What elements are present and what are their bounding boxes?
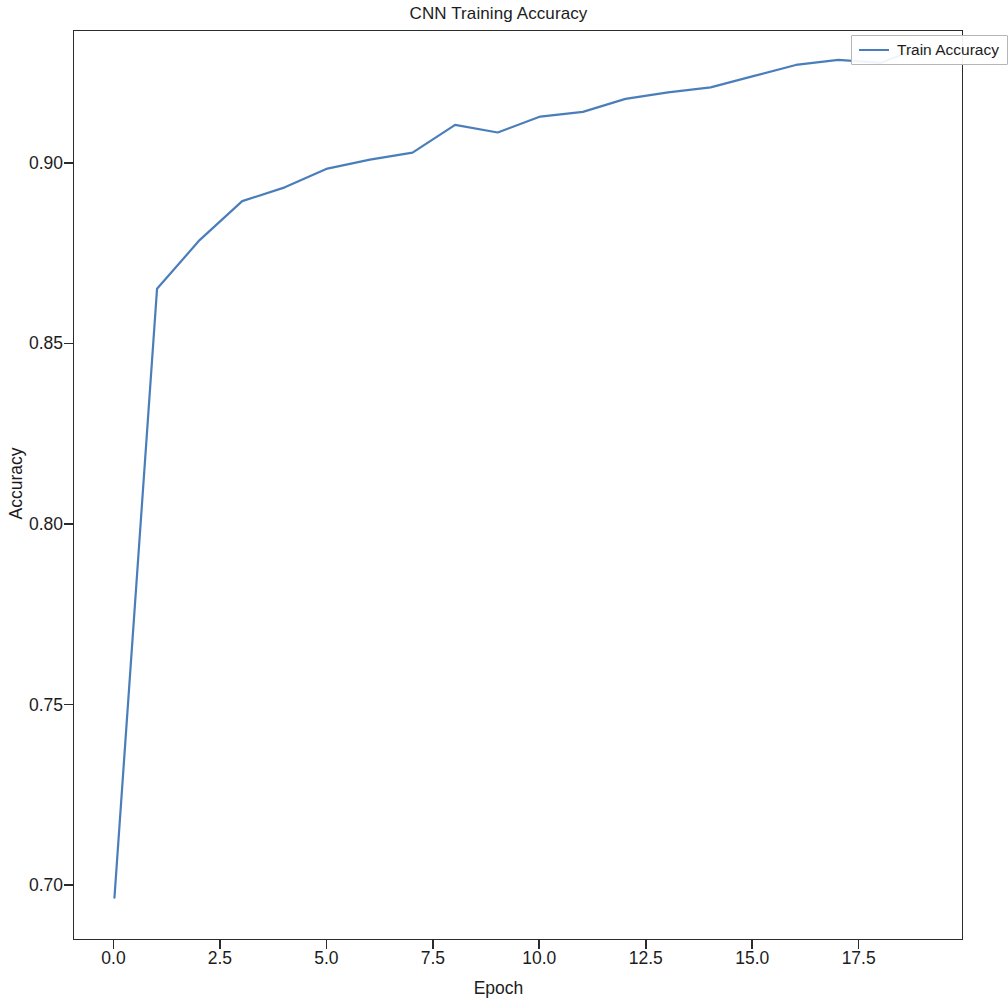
data-line-train-accuracy: [114, 47, 923, 898]
x-tick-mark: [858, 940, 860, 949]
x-tick-label: 15.0: [735, 948, 769, 969]
plot-area: [73, 30, 963, 940]
x-tick-mark: [751, 940, 753, 949]
y-tick-mark: [64, 884, 73, 886]
legend-line-swatch-icon: [859, 49, 889, 51]
x-tick-mark: [326, 940, 328, 949]
x-tick-mark: [432, 940, 434, 949]
x-tick-label: 5.0: [314, 948, 338, 969]
x-tick-label: 7.5: [421, 948, 445, 969]
x-tick-label: 0.0: [101, 948, 125, 969]
legend-label-train-accuracy: Train Accuracy: [897, 41, 999, 59]
x-axis-label: Epoch: [0, 978, 997, 999]
x-tick-label: 10.0: [522, 948, 556, 969]
y-axis-label: Accuracy: [6, 424, 27, 544]
y-tick-mark: [64, 343, 73, 345]
x-tick-mark: [219, 940, 221, 949]
y-tick-label: 0.75: [29, 694, 63, 715]
x-tick-mark: [538, 940, 540, 949]
x-tick-mark: [113, 940, 115, 949]
x-tick-label: 12.5: [629, 948, 663, 969]
y-tick-label: 0.90: [29, 152, 63, 173]
chart-legend: Train Accuracy: [851, 35, 1008, 65]
y-tick-mark: [64, 523, 73, 525]
y-tick-label: 0.80: [29, 514, 63, 535]
x-tick-mark: [645, 940, 647, 949]
line-chart-svg: [74, 31, 964, 941]
y-tick-label: 0.85: [29, 333, 63, 354]
x-tick-label: 17.5: [842, 948, 876, 969]
y-tick-mark: [64, 704, 73, 706]
y-tick-label: 0.70: [29, 875, 63, 896]
x-tick-label: 2.5: [208, 948, 232, 969]
y-tick-mark: [64, 162, 73, 164]
chart-title: CNN Training Accuracy: [0, 4, 997, 24]
